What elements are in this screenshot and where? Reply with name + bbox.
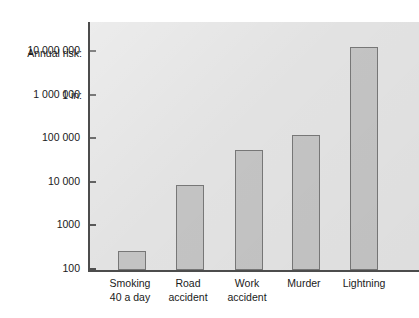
y-tick-mark-1000000 xyxy=(90,94,96,96)
chart-axis-title: Annual risk: 1 in: xyxy=(0,18,82,130)
bar-road-accident xyxy=(176,185,204,270)
y-tick-mark-10000000 xyxy=(90,50,96,52)
risk-bar-chart: Annual risk: 1 in: 10 000 000 1 000 000 … xyxy=(0,0,419,318)
y-axis-tick-label-10000000: 10 000 000 xyxy=(0,45,80,56)
y-axis-tick-label-1000000: 1 000 000 xyxy=(0,89,80,100)
x-axis-label-lightning: Lightning xyxy=(318,277,410,291)
x-axis-label-lightning-line-1: Lightning xyxy=(318,277,410,291)
bar-lightning xyxy=(350,47,378,270)
y-axis-tick-label-1000: 1000 xyxy=(0,219,80,230)
y-axis-tick-label-10000: 10 000 xyxy=(0,176,80,187)
y-axis-tick-label-100: 100 xyxy=(0,263,80,274)
y-tick-mark-1000 xyxy=(90,224,96,226)
y-axis-tick-label-100000: 100 000 xyxy=(0,132,80,143)
y-tick-mark-100000 xyxy=(90,137,96,139)
plot-area xyxy=(88,22,419,272)
y-tick-mark-100 xyxy=(90,268,96,270)
bar-smoking-40-a-day xyxy=(118,251,146,270)
bar-work-accident xyxy=(235,150,263,270)
bar-murder xyxy=(292,135,320,270)
x-axis-label-work-accident-line-2: accident xyxy=(203,291,291,305)
y-tick-mark-10000 xyxy=(90,181,96,183)
